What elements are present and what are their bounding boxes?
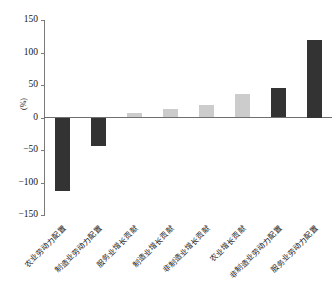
y-tick-mark bbox=[41, 85, 45, 86]
bar bbox=[271, 88, 286, 118]
y-tick-label: 50 bbox=[4, 79, 38, 89]
y-tick-label: −50 bbox=[4, 144, 38, 154]
y-tick-mark bbox=[41, 20, 45, 21]
y-tick-label: 100 bbox=[4, 47, 38, 57]
bar bbox=[307, 40, 322, 118]
bar bbox=[163, 109, 178, 117]
x-tick-label: 农业劳动力配置 bbox=[0, 223, 68, 292]
y-tick-mark bbox=[41, 118, 45, 119]
bar bbox=[235, 94, 250, 117]
plot-area: 150100500−50−100−150 bbox=[44, 20, 332, 215]
y-tick-mark bbox=[41, 53, 45, 54]
bar bbox=[199, 105, 214, 117]
y-tick-label: 0 bbox=[4, 112, 38, 122]
x-axis-tick-labels: 农业劳动力配置制造业劳动力配置服务业增长贡献制造业增长贡献非制造业增长贡献农业增… bbox=[44, 215, 332, 292]
bar bbox=[127, 113, 142, 118]
bar-chart: (%) 150100500−50−100−150 农业劳动力配置制造业劳动力配置… bbox=[0, 0, 335, 292]
bar bbox=[55, 118, 70, 191]
zero-baseline bbox=[44, 117, 332, 118]
y-tick-mark bbox=[41, 150, 45, 151]
y-tick-label: 150 bbox=[4, 14, 38, 24]
y-tick-mark bbox=[41, 183, 45, 184]
y-tick-label: −150 bbox=[4, 209, 38, 219]
y-tick-label: −100 bbox=[4, 177, 38, 187]
bar bbox=[91, 118, 106, 147]
